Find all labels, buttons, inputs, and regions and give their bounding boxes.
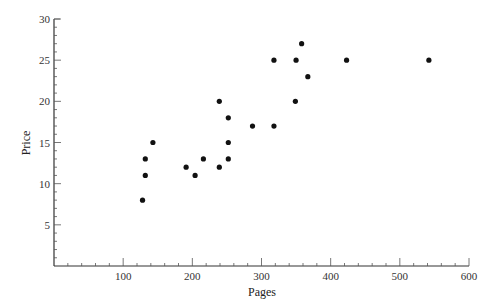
data-point — [193, 173, 198, 178]
data-point — [143, 156, 148, 161]
data-point — [299, 41, 304, 46]
x-axis-label: Pages — [248, 285, 276, 299]
data-point — [271, 58, 276, 63]
data-point — [226, 156, 231, 161]
data-point — [201, 156, 206, 161]
x-tick-label: 300 — [253, 270, 270, 282]
data-points — [140, 41, 432, 203]
data-point — [250, 123, 255, 128]
data-point — [184, 165, 189, 170]
data-point — [217, 165, 222, 170]
x-tick-label: 400 — [322, 270, 339, 282]
data-point — [293, 58, 298, 63]
data-point — [140, 198, 145, 203]
data-point — [293, 99, 298, 104]
data-point — [271, 123, 276, 128]
data-point — [226, 140, 231, 145]
x-tick-label: 100 — [115, 270, 132, 282]
data-point — [305, 74, 310, 79]
data-point — [143, 173, 148, 178]
y-axis: 51015202530 — [39, 13, 61, 266]
x-tick-label: 200 — [184, 270, 201, 282]
data-point — [150, 140, 155, 145]
y-axis-label: Price — [19, 131, 33, 156]
data-point — [426, 58, 431, 63]
y-tick-label: 10 — [39, 178, 51, 190]
y-tick-label: 5 — [45, 219, 51, 231]
y-tick-label: 30 — [39, 13, 51, 25]
x-tick-label: 500 — [392, 270, 409, 282]
x-tick-label: 600 — [461, 270, 478, 282]
y-tick-label: 15 — [39, 137, 51, 149]
data-point — [217, 99, 222, 104]
x-axis: 100200300400500600 — [54, 258, 478, 282]
y-tick-label: 25 — [39, 54, 51, 66]
data-point — [226, 115, 231, 120]
data-point — [344, 58, 349, 63]
y-tick-label: 20 — [39, 95, 51, 107]
scatter-chart: 51015202530 100200300400500600 Pages Pri… — [0, 0, 492, 305]
